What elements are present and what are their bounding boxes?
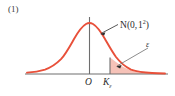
critical-value-subscript: ε <box>109 83 111 89</box>
distribution-label: N(0, 12) <box>120 19 149 31</box>
origin-axis-label: O <box>85 78 92 88</box>
figure-number-label: (1) <box>8 5 19 14</box>
critical-value-axis-label: Kε <box>103 78 112 89</box>
normal-distribution-figure: (1) N(0, 12) ε O Kε <box>0 0 175 96</box>
distribution-label-name: N <box>120 20 127 30</box>
normal-density-curve <box>27 23 165 73</box>
distribution-label-arrow <box>100 25 118 36</box>
tail-label-leader <box>116 48 148 68</box>
tail-area-label: ε <box>146 41 149 49</box>
distribution-label-comma: , <box>135 20 137 30</box>
distribution-label-close-paren: ) <box>146 20 149 30</box>
